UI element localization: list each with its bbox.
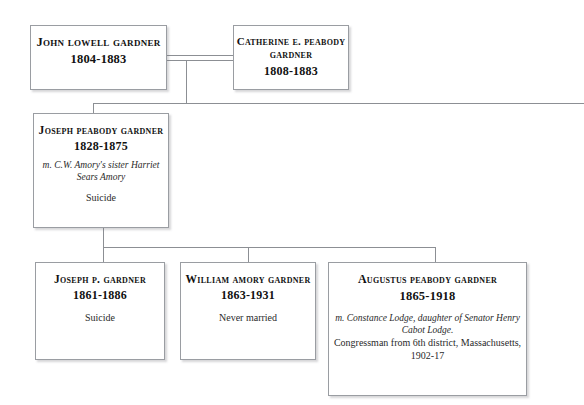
drop-line-to-joseph-p-gardner: [103, 247, 104, 263]
family-tree-diagram: John Lowell Gardner 1804-1883 Catherine …: [0, 0, 584, 405]
marriage-drop-line: [186, 60, 187, 104]
person-box-joseph-p-gardner[interactable]: Joseph P. Gardner 1861-1886 Suicide: [35, 262, 165, 360]
person-dates: 1828-1875: [34, 139, 168, 153]
person-name: Joseph P. Gardner: [36, 272, 164, 286]
person-marriage-note: m. C.W. Amory's sister Harriet Sears Amo…: [34, 160, 168, 184]
person-name: Catherine E. Peabody Gardner: [234, 35, 348, 62]
person-box-john-lowell-gardner[interactable]: John Lowell Gardner 1804-1883: [30, 25, 167, 90]
person-box-augustus-peabody-gardner[interactable]: Augustus Peabody Gardner 1865-1918 m. Co…: [328, 262, 527, 396]
person-box-william-amory-gardner[interactable]: William Amory Gardner 1863-1931 Never ma…: [180, 262, 316, 360]
person-dates: 1865-1918: [329, 289, 526, 304]
person-dates: 1863-1931: [181, 288, 315, 302]
person-office-note: Congressman from 6th district, Massachus…: [329, 337, 526, 362]
marriage-line-upper: [166, 55, 233, 56]
person-name: Joseph Peabody Gardner: [34, 123, 168, 137]
person-marriage-note: m. Constance Lodge, daughter of Senator …: [329, 313, 526, 337]
marriage-line-lower: [166, 60, 233, 61]
drop-line-from-joseph-peabody-gardner: [103, 228, 104, 248]
drop-line-to-augustus-peabody-gardner: [435, 247, 436, 263]
generation-1-descent-bar: [93, 103, 584, 104]
person-name: John Lowell Gardner: [31, 35, 166, 50]
person-fate-note: Never married: [181, 312, 315, 325]
person-dates: 1808-1883: [234, 64, 348, 78]
person-fate-note: Suicide: [36, 312, 164, 325]
person-dates: 1804-1883: [31, 52, 166, 67]
person-name: Augustus Peabody Gardner: [329, 272, 526, 287]
person-dates: 1861-1886: [36, 288, 164, 302]
generation-2-sibling-bar: [103, 247, 436, 248]
person-box-catherine-peabody-gardner[interactable]: Catherine E. Peabody Gardner 1808-1883: [233, 25, 349, 90]
person-fate-note: Suicide: [34, 192, 168, 205]
drop-line-to-william-amory-gardner: [248, 247, 249, 263]
person-name: William Amory Gardner: [181, 272, 315, 286]
person-box-joseph-peabody-gardner[interactable]: Joseph Peabody Gardner 1828-1875 m. C.W.…: [33, 113, 169, 228]
